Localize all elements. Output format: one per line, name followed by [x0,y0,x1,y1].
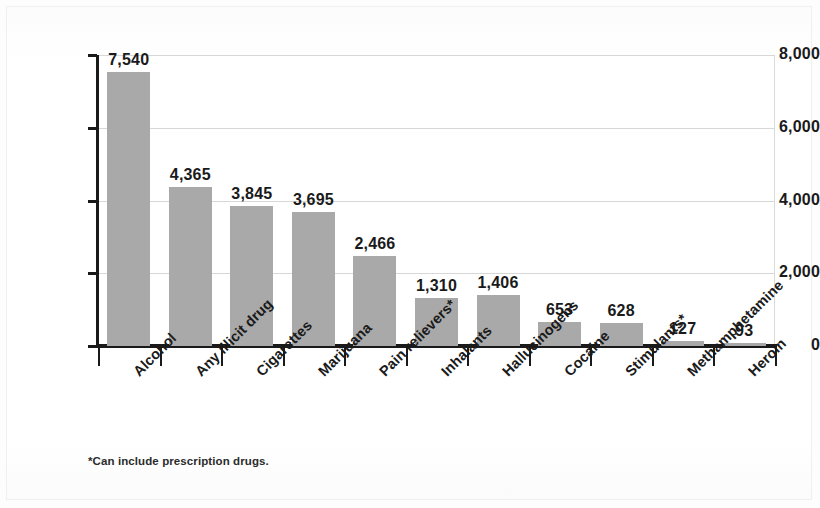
chart-footnote: *Can include prescription drugs. [88,455,269,467]
bar-value-label: 628 [561,302,681,320]
bar-chart: 02,0004,0006,0008,000 7,5404,3653,8453,6… [0,0,820,508]
bar-value-label: 2,466 [315,235,435,253]
y-tick-mark [88,345,97,348]
y-tick-mark [88,200,97,203]
y-tick-label: 8,000 [738,45,820,63]
y-tick-label: 2,000 [738,263,820,281]
gridline [98,55,774,56]
y-tick-label: 4,000 [738,191,820,209]
y-tick-label: 6,000 [738,118,820,136]
bar[interactable] [169,187,212,346]
gridline [98,128,774,129]
bar-value-label: 1,406 [438,274,558,292]
bar-value-label: 4,365 [130,166,250,184]
y-tick-mark [88,127,97,130]
y-tick-mark [88,272,97,275]
x-tick-mark [98,348,100,366]
bar-value-label: 3,695 [253,191,373,209]
bar[interactable] [107,72,150,346]
bar-value-label: 7,540 [69,51,189,69]
